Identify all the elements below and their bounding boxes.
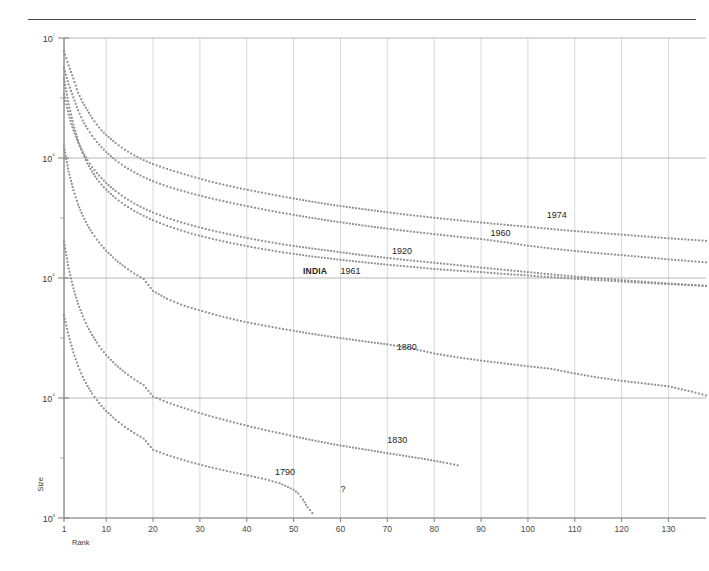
data-point [315,218,317,220]
data-point [143,207,145,209]
data-point [591,375,593,377]
data-point [76,300,78,302]
data-point [393,264,395,266]
data-point [631,281,633,283]
data-point [490,268,492,270]
data-point [187,223,189,225]
data-point [380,263,382,265]
x-axis-title: Rank [72,538,90,547]
data-point [226,201,228,203]
x-tick-label-70: 70 [379,524,395,534]
data-point [198,309,200,311]
data-point [507,269,509,271]
data-point [436,460,438,462]
data-point [597,277,599,279]
data-point [470,271,472,273]
data-point [684,238,686,240]
data-point [371,226,373,228]
chart-canvas [0,0,709,571]
data-point [233,421,235,423]
data-point [358,224,360,226]
data-point [83,319,85,321]
data-point [159,183,161,185]
data-point [130,153,132,155]
data-point [219,468,221,470]
data-point [64,97,66,99]
data-point [308,255,310,257]
data-point [229,471,231,473]
y-tick-label-10000000: 10⁷ [43,32,55,44]
data-point [75,103,77,105]
data-point [222,316,224,318]
data-point [684,284,686,286]
data-point [140,213,142,215]
data-point [304,501,306,503]
data-point [681,388,683,390]
data-point [494,240,496,242]
data-point [275,431,277,433]
data-point [105,250,107,252]
data-point [170,226,172,228]
data-point [517,225,519,227]
data-point [289,252,291,254]
data-point [180,172,182,174]
data-point [383,257,385,259]
y-tick-label-100000: 10⁵ [42,272,55,284]
data-point [254,190,256,192]
data-point [215,417,217,419]
data-point [198,412,200,414]
data-point [374,342,376,344]
data-point [570,275,572,277]
data-point [437,234,439,236]
data-point [143,215,145,217]
data-point [127,428,129,430]
data-point [390,212,392,214]
data-point [170,403,172,405]
data-point [514,270,516,272]
data-point [98,242,100,244]
data-point [390,264,392,266]
data-point [691,239,693,241]
data-point [80,116,82,118]
data-point [355,207,357,209]
figure-root: 10³10⁴10⁵10⁶10⁷ 110203040506070809010011… [0,0,709,571]
data-point [261,240,263,242]
data-point [272,242,274,244]
data-point [103,149,105,151]
data-point [584,276,586,278]
data-point [537,272,539,274]
data-point [63,67,65,69]
data-point [430,233,432,235]
data-point [152,212,154,214]
data-point [180,406,182,408]
data-point [393,258,395,260]
series-1830 [63,241,459,466]
data-point [287,486,289,488]
data-point [282,243,284,245]
data-point [115,142,117,144]
data-point [311,333,313,335]
data-point [78,306,80,308]
data-point [65,158,67,160]
data-point [82,215,84,217]
data-point [110,186,112,188]
data-point [69,177,71,179]
data-point [577,373,579,375]
data-point [584,374,586,376]
data-point [437,353,439,355]
data-point [222,240,224,242]
data-point [117,366,119,368]
data-point [251,238,253,240]
data-point [65,103,67,105]
data-point [77,109,79,111]
data-point [268,241,270,243]
data-point [330,204,332,206]
data-point [173,170,175,172]
data-point [333,250,335,252]
data-point [215,230,217,232]
data-point [94,176,96,178]
data-point [282,196,284,198]
data-point [574,278,576,280]
data-point [219,315,221,317]
data-point [450,264,452,266]
